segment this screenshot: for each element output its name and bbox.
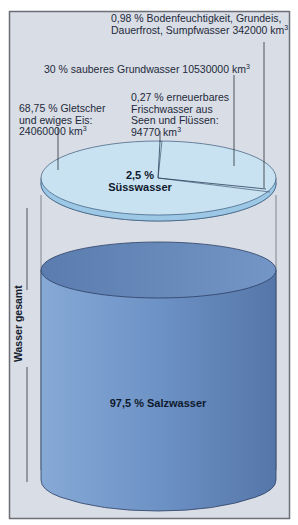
label-soil-moisture-line2: Dauerfrost, Sumpfwasser 342000 km3 (111, 25, 288, 37)
label-soil-moisture: 0,98 % Bodenfeuchtigkeit, Grundeis, Daue… (111, 13, 288, 36)
label-glaciers-line1: 68,75 % Gletscher (19, 103, 105, 115)
label-groundwater: 30 % sauberes Grundwasser 10530000 km3 (44, 64, 250, 76)
label-lakes-line1: 0,27 % erneuerbares (131, 92, 229, 104)
diagram-graphic (0, 0, 298, 525)
label-lakes-rivers: 0,27 % erneuerbares Frischwasser aus See… (131, 92, 229, 138)
label-lakes-line4: 94770 km3 (131, 127, 229, 139)
salt-water-cylinder (41, 242, 276, 511)
label-glaciers: 68,75 % Gletscher und ewiges Eis: 240600… (19, 103, 105, 138)
label-glaciers-line3: 24060000 km3 (19, 126, 105, 138)
water-distribution-diagram: 0,98 % Bodenfeuchtigkeit, Grundeis, Daue… (0, 0, 298, 525)
label-fresh-water-percent: 2,5 % (100, 170, 180, 182)
label-salt-water: 97,5 % Salzwasser (103, 398, 213, 410)
label-total-water: Wasser gesamt (12, 285, 24, 362)
label-fresh-water-name: Süsswasser (100, 182, 180, 194)
label-fresh-water: 2,5 % Süsswasser (100, 170, 180, 193)
